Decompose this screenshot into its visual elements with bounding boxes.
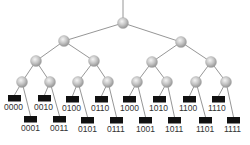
tree-edges [22,0,226,82]
tree-node [206,57,217,68]
leaf-box [81,117,94,124]
leaf-box [8,95,21,102]
tree-node [31,56,42,67]
leaf-label: 1011 [165,124,184,134]
leaf-label: 0001 [21,123,40,133]
tree-node [73,77,84,88]
leaf-box [199,117,212,124]
leaf-label: 0111 [107,124,125,134]
tree-node [103,77,114,88]
leaf-label: 1001 [136,124,155,134]
leaf-box [212,96,225,103]
tree-node [59,36,70,47]
tree-node [147,57,158,68]
leaf-box [66,96,79,103]
leaf-label: 1100 [179,103,198,113]
tree-node [176,37,187,48]
leaf-label: 0010 [34,102,53,112]
leaf-label: 1000 [120,103,139,113]
leaf-box [153,96,166,103]
tree-node [132,77,143,88]
tree-node [221,77,232,88]
tree-node [191,77,202,88]
leaf-label: 0011 [50,123,69,133]
tree-node [89,56,100,67]
leaf-label: 1110 [208,103,226,113]
leaf-box [139,117,152,124]
leaf-label: 0110 [91,103,110,113]
tree-node [17,77,28,88]
leaf-label: 0000 [4,102,23,112]
tree-node [45,77,56,88]
leaf-box [168,117,181,124]
leaf-label: 1010 [149,103,168,113]
leaf-box [183,96,196,103]
leaf-label: 0101 [78,124,97,134]
leaf-box [110,117,123,124]
leaf-box [95,96,108,103]
tree-edge [123,23,181,42]
tree-edge [64,23,123,41]
tree-node [162,77,173,88]
leaf-label: 1111 [224,124,241,134]
leaf-box [53,116,66,123]
leaf-label: 0100 [62,103,81,113]
leaf-box [123,96,136,103]
leaf-box [38,95,51,102]
binary-tree-diagram: 0000000100100011010001010110011110001001… [0,0,250,145]
leaf-label: 1101 [196,124,215,134]
tree-node [118,18,129,29]
leaf-box [24,116,37,123]
leaf-box [227,117,240,124]
